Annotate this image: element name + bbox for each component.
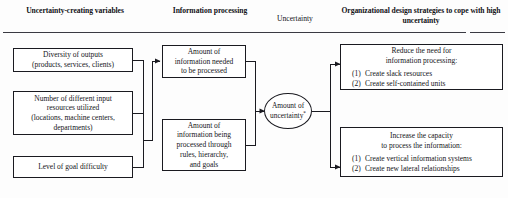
wire-arrow-into-increase-capacity	[330, 167, 340, 168]
box-line: resources utilized	[47, 103, 100, 113]
strategy-items: (1)Create vertical information systems (…	[345, 154, 498, 174]
ellipse-line: Amount of	[272, 101, 304, 110]
box-input-resources[interactable]: Number of different input resources util…	[13, 91, 133, 135]
wire-processing-bus	[255, 61, 256, 146]
box-line: to be processed	[181, 66, 227, 76]
box-line: Diversity of outputs	[43, 50, 103, 60]
box-line: Level of goal difficulty	[38, 162, 108, 172]
item-number: (1)	[352, 154, 365, 164]
item-text: Create slack resources	[365, 69, 432, 78]
box-line: Amount of	[188, 47, 221, 57]
header-rule-main	[3, 32, 466, 33]
wire-uncertainty-out	[312, 111, 331, 112]
item-text: Create vertical information systems	[365, 154, 472, 163]
title-line: Increase the capacity	[345, 131, 498, 141]
item-text: Create self-contained units	[365, 79, 445, 88]
header-line: Information	[173, 6, 212, 15]
footnote-marker: *	[303, 110, 306, 116]
wire-riser-to-info-needed	[152, 61, 153, 141]
column-header-organizational-design-strategies: Organizational design strategies to cope…	[338, 6, 504, 26]
header-line: Uncertainty-creating	[26, 6, 93, 15]
strategy-title: Increase the capacity to process the inf…	[345, 131, 498, 151]
box-line: information needed	[175, 57, 234, 67]
header-line: Organizational design strategies to	[341, 6, 452, 15]
node-amount-of-uncertainty[interactable]: Amount of uncertainty*	[264, 93, 312, 129]
header-line: processing	[214, 6, 248, 15]
box-information-being-processed[interactable]: Amount of information being processed th…	[162, 119, 246, 171]
strategy-item: (2)Create self-contained units	[352, 79, 498, 89]
box-goal-difficulty[interactable]: Level of goal difficulty	[13, 156, 133, 178]
box-information-needed[interactable]: Amount of information needed to be proce…	[162, 45, 246, 78]
item-number: (2)	[352, 79, 365, 89]
ellipse-line: uncertainty*	[270, 110, 306, 121]
column-header-information-processing: Information processing	[160, 6, 260, 16]
box-diversity-of-outputs[interactable]: Diversity of outputs (products, services…	[13, 48, 133, 72]
item-text: Create new lateral relationships	[365, 164, 460, 173]
strategy-item: (1)Create vertical information systems	[352, 154, 498, 164]
wire-arrow-into-reduce-need	[330, 64, 340, 65]
item-number: (2)	[352, 164, 365, 174]
box-line: rules, hierarchy,	[180, 150, 228, 160]
title-line: to process the information:	[345, 141, 498, 151]
header-line: variables	[95, 6, 124, 15]
box-line: Number of different input	[34, 94, 112, 104]
header-line: Uncertainty	[277, 14, 313, 23]
strategy-item: (2)Create new lateral relationships	[352, 164, 498, 174]
box-line: departments)	[53, 123, 92, 133]
information-processing-diagram: Uncertainty-creating variables Informati…	[0, 0, 508, 198]
box-line: (products, services, clients)	[32, 60, 114, 70]
strategy-items: (1)Create slack resources (2)Create self…	[345, 69, 498, 89]
strategy-title: Reduce the need for information processi…	[345, 46, 498, 66]
column-header-uncertainty: Uncertainty	[256, 14, 334, 24]
box-line: Amount of	[188, 121, 221, 131]
title-line: information processing:	[345, 56, 498, 66]
item-number: (1)	[352, 69, 365, 79]
box-line: (locations, machine centers,	[31, 113, 115, 123]
wire-variables-bus	[143, 60, 144, 168]
column-header-uncertainty-creating-variables: Uncertainty-creating variables	[14, 6, 136, 16]
box-line: and goals	[190, 160, 219, 170]
box-increase-capacity[interactable]: Increase the capacity to process the inf…	[340, 127, 503, 177]
wire-arrow-into-info-needed	[152, 61, 160, 62]
title-line: Reduce the need for	[345, 46, 498, 56]
box-reduce-need[interactable]: Reduce the need for information processi…	[340, 44, 503, 90]
wire-strategy-bus	[330, 64, 331, 168]
header-rule-tail	[470, 32, 505, 33]
box-line: processed through	[177, 140, 232, 150]
box-line: information being	[177, 130, 231, 140]
ellipse-label: uncertainty	[270, 112, 303, 121]
wire-arrow-into-uncertainty	[255, 111, 264, 112]
strategy-item: (1)Create slack resources	[352, 69, 498, 79]
